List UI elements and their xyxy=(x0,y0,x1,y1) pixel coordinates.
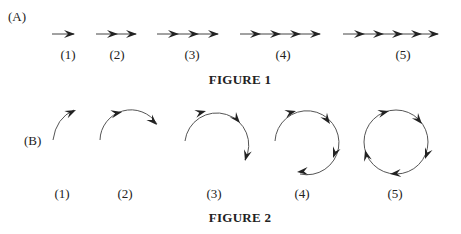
figure1-item-1-label: (1) xyxy=(60,48,75,62)
figure2-item-1-arc xyxy=(53,106,78,140)
figure2-item-3-arc xyxy=(185,107,252,162)
figure2-part-label: (B) xyxy=(24,134,41,148)
figure2-caption: FIGURE 2 xyxy=(209,210,272,226)
figure2-item-2-arc xyxy=(100,108,160,140)
figure1-item-1-arrows xyxy=(52,30,75,38)
figure1-item-5-label: (5) xyxy=(395,48,410,62)
figure2-item-4-label: (4) xyxy=(294,187,309,201)
figure2-item-4-arc xyxy=(275,107,341,176)
figure2-item-5-label: (5) xyxy=(387,187,402,201)
figure1-item-2-arrows xyxy=(96,30,137,38)
figure1-item-3-arrows xyxy=(157,30,219,38)
figure1-item-3-label: (3) xyxy=(184,48,199,62)
figure2-item-1-label: (1) xyxy=(54,187,69,201)
figure2-item-2-label: (2) xyxy=(117,187,132,201)
figure1-item-5-arrows xyxy=(343,30,439,38)
figure1-item-4-label: (4) xyxy=(275,48,290,62)
figure2-item-5-arc xyxy=(361,107,432,178)
figure1-item-2-label: (2) xyxy=(109,48,124,62)
figure1-caption: FIGURE 1 xyxy=(209,72,272,88)
figure1-item-4-arrows xyxy=(240,30,321,38)
figure2-item-3-label: (3) xyxy=(206,187,221,201)
